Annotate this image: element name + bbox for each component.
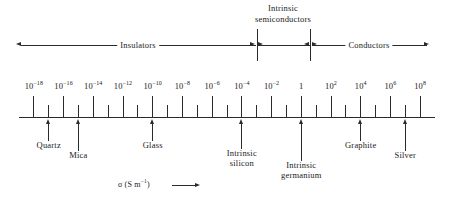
tick-exponent: 6 <box>393 80 396 86</box>
tick-exponent: −6 <box>213 80 220 86</box>
tick-mantissa: 10 <box>355 81 364 91</box>
material-label-text: Mica <box>69 150 87 160</box>
material-label: Mica <box>69 150 87 160</box>
axis-tick-label: 10−4 <box>234 82 249 91</box>
callout-stem <box>48 123 49 141</box>
material-label-line2: germanium <box>281 170 322 180</box>
axis-tick-minor <box>227 105 228 117</box>
semiconductors-span-line <box>258 45 310 46</box>
axis-tick-label: 1 <box>299 82 303 91</box>
material-label-line1: Intrinsic <box>286 160 316 170</box>
axis-tick-label: 10−14 <box>84 82 102 91</box>
axis-tick-major <box>301 96 302 117</box>
tick-mantissa: 10 <box>414 81 423 91</box>
axis-caption-arrowhead <box>195 183 200 187</box>
tick-mantissa: 1 <box>299 81 303 91</box>
callout-stem <box>405 123 406 151</box>
tick-mantissa: 10 <box>84 81 93 91</box>
tick-exponent: 2 <box>334 80 337 86</box>
axis-tick-major <box>33 96 34 117</box>
axis-tick-major <box>241 96 242 117</box>
material-label-text: Glass <box>143 140 163 150</box>
axis-tick-major <box>331 96 332 117</box>
axis-tick-major <box>212 96 213 117</box>
material-label-text: Silver <box>395 150 417 160</box>
axis-tick-minor <box>78 105 79 117</box>
material-label: Graphite <box>345 140 376 150</box>
sigma-units-open: (S m <box>125 180 141 189</box>
material-label-line1: Intrinsic <box>227 148 257 158</box>
tick-mantissa: 10 <box>264 81 273 91</box>
material-label: Intrinsicgermanium <box>281 160 322 180</box>
axis-tick-minor <box>197 105 198 117</box>
material-label-text: Quartz <box>37 140 61 150</box>
axis-tick-label: 10−8 <box>175 82 190 91</box>
tick-mantissa: 10 <box>325 81 334 91</box>
axis-tick-major <box>360 96 361 117</box>
axis-tick-major <box>93 96 94 117</box>
divider-insulator-semiconductor <box>257 29 258 61</box>
axis-tick-minor <box>286 105 287 117</box>
axis-tick-label: 10−2 <box>264 82 279 91</box>
tick-mantissa: 10 <box>144 81 153 91</box>
callout-stem <box>78 123 79 151</box>
semiconductors-title: Intrinsic semiconductors <box>255 3 311 24</box>
axis-tick-minor <box>345 105 346 117</box>
axis-tick-label: 106 <box>385 82 397 91</box>
axis-caption-arrow-line <box>172 185 196 186</box>
tick-exponent: 4 <box>364 80 367 86</box>
sigma-symbol: σ <box>118 180 123 189</box>
tick-mantissa: 10 <box>25 81 34 91</box>
axis-tick-label: 102 <box>325 82 337 91</box>
tick-mantissa: 10 <box>54 81 63 91</box>
axis-tick-label: 10−6 <box>204 82 219 91</box>
callout-stem <box>152 123 153 141</box>
callout-stem <box>241 123 242 149</box>
tick-exponent: −14 <box>93 80 103 86</box>
axis-line <box>19 117 435 118</box>
tick-exponent: −18 <box>33 80 43 86</box>
axis-tick-major <box>420 96 421 117</box>
tick-mantissa: 10 <box>114 81 123 91</box>
axis-tick-minor <box>316 105 317 117</box>
semiconductors-title-line1: Intrinsic <box>268 3 298 13</box>
axis-tick-major <box>152 96 153 117</box>
axis-caption: σ(S m−1) <box>118 180 150 190</box>
tick-mantissa: 10 <box>234 81 243 91</box>
conductivity-scale-figure: Insulators Intrinsic semiconductors Cond… <box>0 0 449 202</box>
axis-tick-major <box>271 96 272 117</box>
axis-tick-label: 104 <box>355 82 367 91</box>
material-label-line2: silicon <box>230 158 254 168</box>
conductors-label: Conductors <box>345 40 392 50</box>
tick-mantissa: 10 <box>204 81 213 91</box>
axis-tick-minor <box>256 105 257 117</box>
material-label: Quartz <box>37 140 61 150</box>
axis-tick-major <box>63 96 64 117</box>
material-label: Intrinsicsilicon <box>227 148 257 168</box>
material-label: Glass <box>143 140 163 150</box>
semiconductors-right-arrowhead <box>304 42 309 46</box>
tick-exponent: −16 <box>63 80 73 86</box>
axis-tick-label: 10−10 <box>144 82 162 91</box>
conductors-right-arrowhead <box>424 42 429 46</box>
material-label-text: Graphite <box>345 140 376 150</box>
axis-tick-major <box>123 96 124 117</box>
axis-tick-minor <box>48 105 49 117</box>
tick-exponent: −8 <box>183 80 190 86</box>
tick-exponent: 8 <box>423 80 426 86</box>
material-label: Silver <box>395 150 417 160</box>
tick-exponent: −12 <box>123 80 133 86</box>
callout-stem <box>360 123 361 141</box>
axis-tick-major <box>390 96 391 117</box>
semiconductors-title-line2: semiconductors <box>255 14 311 24</box>
axis-tick-major <box>182 96 183 117</box>
axis-tick-minor <box>167 105 168 117</box>
callout-stem <box>301 123 302 161</box>
axis-tick-label: 108 <box>414 82 426 91</box>
axis-tick-minor <box>405 105 406 117</box>
axis-tick-label: 10−12 <box>114 82 132 91</box>
tick-exponent: −2 <box>273 80 280 86</box>
axis-tick-minor <box>375 105 376 117</box>
tick-mantissa: 10 <box>385 81 394 91</box>
axis-tick-label: 10−16 <box>54 82 72 91</box>
